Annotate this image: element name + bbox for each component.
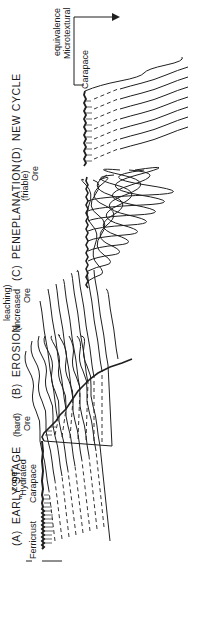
ferricrust-label: Ferricrust <box>28 521 38 559</box>
panel-c-ore-label-1: Ore <box>30 166 40 181</box>
panel-d-surface <box>84 91 86 166</box>
panel-a-ore-label-1: Ore <box>22 416 32 431</box>
panel-a-hydrated-label-1: "Hydrated <box>18 459 28 499</box>
panel-b-title: EROSION <box>10 324 22 377</box>
laterite-evolution-figure: (A) EARLY STAGE <box>0 0 220 621</box>
panel-b-ore-label-1: Ore <box>22 288 32 303</box>
panel-d-carapace-label: Carapace <box>80 50 90 89</box>
panel-a-carapace-hatching <box>44 495 53 543</box>
panel-b-letter: (B) <box>10 383 22 399</box>
panel-c-letter: (C) <box>10 265 22 281</box>
panel-c-peneplanation: (C) PENEPLANATION Ore (friable) <box>10 164 174 288</box>
panel-a-ore-label-2: (hard) <box>12 413 22 437</box>
panel-d-microtextural-label-2: equivalence <box>52 8 62 56</box>
panel-a-letter: (A) <box>10 530 22 546</box>
panel-c-surface <box>86 177 88 288</box>
panel-d-new-cycle: (D) NEW CYCLE <box>10 7 188 166</box>
panel-a-hydrated-label-2: zone" <box>9 468 19 491</box>
panel-c-ore-lines <box>81 167 173 281</box>
arrowhead-icon <box>112 13 120 21</box>
panel-c-ore-label-2: (friable) <box>20 170 30 201</box>
panel-a-hydrated-dashes <box>49 451 104 541</box>
panel-d-title: NEW CYCLE <box>10 73 22 141</box>
panel-d-ore-lines <box>85 57 188 149</box>
panel-a-carapace-label: Carapace <box>28 464 38 503</box>
panel-a-ore-lines <box>25 334 110 541</box>
panel-d-microtextural-label-1: Microtextural <box>62 7 72 59</box>
panel-b-ore-label-3: leaching) <box>2 284 12 321</box>
panel-d-letter: (D) <box>10 147 22 163</box>
panel-d-dashes <box>94 89 118 159</box>
panel-b-ore-label-2: (increased <box>12 289 22 331</box>
panel-d-carapace-hatching <box>86 101 92 161</box>
